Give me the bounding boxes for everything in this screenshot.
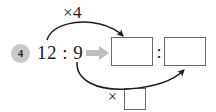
answer-box-bottom-multiplier[interactable]: [124, 88, 146, 110]
problem-number-badge: 4: [11, 44, 30, 63]
transform-arrow-icon: [86, 45, 110, 61]
bottom-multiplier-symbol: ×: [108, 88, 117, 106]
ratio-exercise-diagram: 4 12 : 9 : ×4 ×: [0, 0, 216, 112]
bottom-curve-arrow: [77, 62, 184, 89]
answer-box-second[interactable]: [164, 37, 206, 66]
top-multiplier-label: ×4: [63, 3, 82, 23]
given-ratio-expression: 12 : 9: [37, 42, 83, 64]
result-ratio-colon: :: [154, 42, 164, 63]
answer-box-first[interactable]: [111, 37, 153, 66]
